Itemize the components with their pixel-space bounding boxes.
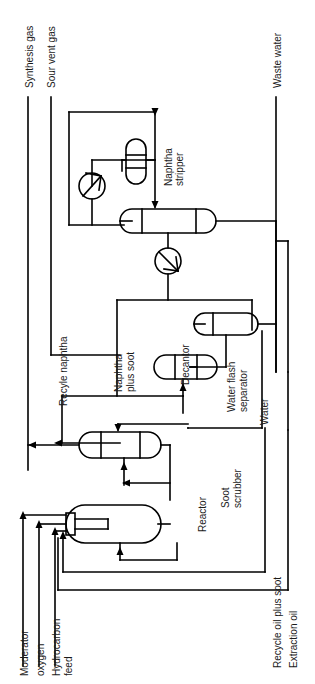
label-moderator: Moderator xyxy=(19,630,30,676)
label-hydrocarbon-feed: Hydrocarbon feed xyxy=(51,619,74,676)
label-extraction-oil: Extraction oil xyxy=(288,611,299,668)
reactor-burner xyxy=(66,513,108,535)
scrubber-wash-inlet xyxy=(118,424,188,430)
reactor-vessel xyxy=(66,505,161,543)
stream-extraction-oil xyxy=(58,372,288,590)
soot-scrubber-vessel xyxy=(79,432,161,458)
pfd-canvas: Synthesis gas Sour vent gas Waste water … xyxy=(0,0,315,684)
label-soot-scrubber: Soot scrubber xyxy=(220,469,243,508)
right-header-tie-ins xyxy=(276,221,288,372)
label-recycle-oil-plus-soot: Recycle oil plus soot xyxy=(272,577,283,668)
stream-sour-vent-gas xyxy=(51,97,120,355)
arrowhead-synthesis-gas xyxy=(28,442,36,449)
label-naphtha-plus-soot: Naphtha plus soot xyxy=(113,352,136,392)
reflux-drum xyxy=(126,139,146,184)
label-waste-water: Waste water xyxy=(272,33,283,88)
label-recyle-naphtha: Recyle naphtha xyxy=(58,337,69,407)
arrowhead-scrubber-wash xyxy=(115,424,122,432)
label-synthesis-gas: Synthesis gas xyxy=(24,26,35,88)
bottoms-cooler-icon xyxy=(155,248,181,274)
stream-recyle-naphtha xyxy=(62,396,120,443)
process-flow-diagram xyxy=(0,0,315,684)
label-decantor: Decantor xyxy=(180,344,191,385)
arrowhead-scrubber-riser xyxy=(121,462,128,470)
label-oxygen: oxygen xyxy=(35,644,46,676)
label-water-flash-separator: Water flash separator xyxy=(226,362,249,412)
label-water: Water xyxy=(259,399,270,425)
label-naphtha-stripper: Naphtha stripper xyxy=(163,148,185,186)
label-reactor: Reactor xyxy=(197,497,208,532)
arrowhead-reactor-bottom xyxy=(117,547,124,555)
naphtha-stripper-vessel xyxy=(120,209,216,233)
label-sour-vent-gas: Sour vent gas xyxy=(46,26,57,88)
